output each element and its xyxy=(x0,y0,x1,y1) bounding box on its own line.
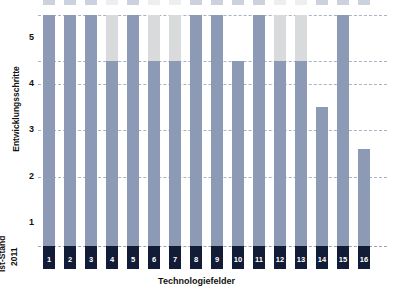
bar-15[interactable]: 15 xyxy=(337,15,349,269)
bar-number-label: 8 xyxy=(190,255,202,264)
bar-body-segment xyxy=(148,61,160,246)
bar-number-label: 7 xyxy=(169,255,181,264)
plot-area: 12345678910111213141516 xyxy=(38,15,387,269)
remnant-bar xyxy=(64,0,76,5)
bar-8[interactable]: 8 xyxy=(190,15,202,269)
bar-number-label: 16 xyxy=(358,255,370,264)
bar-body-segment xyxy=(253,15,265,246)
remnant-bar xyxy=(232,0,244,5)
x-axis-title: Technologiefelder xyxy=(0,276,393,286)
bar-body-segment xyxy=(337,15,349,246)
bar-3[interactable]: 3 xyxy=(85,15,97,269)
bar-body-segment xyxy=(43,15,55,246)
bar-body-segment xyxy=(358,149,370,246)
bar-cap-segment xyxy=(169,15,181,61)
bar-6[interactable]: 6 xyxy=(148,15,160,269)
remnant-bar xyxy=(274,0,286,5)
y-axis-title: Entwicklungsschritte xyxy=(11,49,21,169)
bar-body-segment xyxy=(232,61,244,246)
bar-number-label: 11 xyxy=(253,255,265,264)
bar-7[interactable]: 7 xyxy=(169,15,181,269)
bar-number-label: 12 xyxy=(274,255,286,264)
remnant-bar xyxy=(316,0,328,5)
bar-number-label: 6 xyxy=(148,255,160,264)
bar-number-label: 5 xyxy=(127,255,139,264)
remnant-bar xyxy=(43,0,55,5)
remnant-bar xyxy=(148,0,160,5)
bar-9[interactable]: 9 xyxy=(211,15,223,269)
bar-number-label: 2 xyxy=(64,255,76,264)
bar-body-segment xyxy=(127,15,139,246)
bar-4[interactable]: 4 xyxy=(106,15,118,269)
bar-5[interactable]: 5 xyxy=(127,15,139,269)
y-tick-5: 5 xyxy=(8,33,34,42)
remnant-bar xyxy=(169,0,181,5)
bar-cap-segment xyxy=(295,15,307,61)
bar-16[interactable]: 16 xyxy=(358,15,370,269)
y-tick-1: 1 xyxy=(8,218,34,227)
bar-11[interactable]: 11 xyxy=(253,15,265,269)
bar-10[interactable]: 10 xyxy=(232,15,244,269)
bar-body-segment xyxy=(64,15,76,246)
bar-body-segment xyxy=(85,15,97,246)
bar-2[interactable]: 2 xyxy=(64,15,76,269)
remnant-bar xyxy=(127,0,139,5)
remnant-bar xyxy=(211,0,223,5)
bar-body-segment xyxy=(316,107,328,246)
remnant-bar xyxy=(190,0,202,5)
bar-cap-segment xyxy=(106,15,118,61)
bar-body-segment xyxy=(274,61,286,246)
remnant-bar xyxy=(106,0,118,5)
bar-number-label: 10 xyxy=(232,255,244,264)
bar-14[interactable]: 14 xyxy=(316,15,328,269)
chart-figure: 54321 Entwicklungsschritte Ist-Stand 201… xyxy=(0,0,393,299)
baseline-label-line1: Ist-Stand xyxy=(0,236,7,272)
bar-1[interactable]: 1 xyxy=(43,15,55,269)
bar-body-segment xyxy=(211,15,223,246)
bar-12[interactable]: 12 xyxy=(274,15,286,269)
bar-number-label: 3 xyxy=(85,255,97,264)
bar-number-label: 13 xyxy=(295,255,307,264)
remnant-bar xyxy=(253,0,265,5)
bar-number-label: 14 xyxy=(316,255,328,264)
y-tick-2: 2 xyxy=(8,172,34,181)
bar-cap-segment xyxy=(148,15,160,61)
clipped-chart-remnant xyxy=(0,0,393,5)
bar-number-label: 4 xyxy=(106,255,118,264)
remnant-bar xyxy=(337,0,349,5)
bar-body-segment xyxy=(106,61,118,246)
bar-number-label: 9 xyxy=(211,255,223,264)
baseline-label-line2: 2011 xyxy=(10,248,19,266)
bar-13[interactable]: 13 xyxy=(295,15,307,269)
bar-number-label: 1 xyxy=(43,255,55,264)
bar-body-segment xyxy=(190,15,202,246)
baseline-axis-label: Ist-Stand 2011 xyxy=(0,228,34,262)
bar-body-segment xyxy=(295,61,307,246)
remnant-bar xyxy=(85,0,97,5)
bar-body-segment xyxy=(169,61,181,246)
remnant-bar xyxy=(358,0,370,5)
remnant-bar xyxy=(295,0,307,5)
bar-cap-segment xyxy=(274,15,286,61)
bar-number-label: 15 xyxy=(337,255,349,264)
